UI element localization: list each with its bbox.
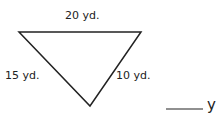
- side-label-top: 20 yd.: [65, 10, 99, 22]
- side-label-right: 10 yd.: [116, 70, 150, 82]
- side-label-left: 15 yd.: [5, 70, 39, 82]
- answer-unit: y: [207, 97, 216, 113]
- triangle-diagram: [0, 0, 222, 118]
